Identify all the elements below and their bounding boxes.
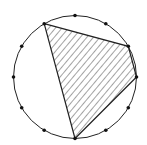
circle-point-dot [104, 22, 108, 26]
circle-diagram [0, 0, 147, 145]
circle-point-dot [127, 45, 131, 49]
shaded-quadrilateral [44, 24, 136, 139]
circle-point-dot [20, 45, 24, 49]
circle-point-dot [42, 22, 46, 26]
circle-point-dot [127, 106, 131, 110]
circle-point-dot [20, 106, 24, 110]
circle-point-dot [73, 14, 77, 18]
circle-point-dot [42, 129, 46, 133]
circle-point-dot [104, 129, 108, 133]
circle-point-dot [135, 75, 139, 79]
circle-point-dot [12, 75, 16, 79]
circle-point-dot [73, 137, 77, 141]
